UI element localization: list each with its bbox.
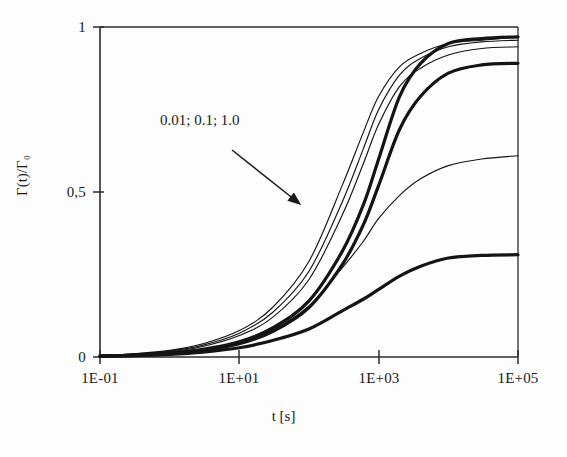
plot-area (0, 0, 567, 457)
x-tick-label-1e03: 1E+03 (358, 370, 399, 387)
y-tick-label-0-5: 0,5 (42, 184, 86, 201)
figure-canvas: 1 0,5 0 1E-01 1E+01 1E+03 1E+05 Γ(t)/Γ₀ … (0, 0, 567, 457)
y-axis-title: Γ(t)/Γ₀ (14, 155, 31, 196)
x-tick-label-1e01: 1E+01 (218, 370, 259, 387)
y-axis-ticks (93, 27, 104, 357)
x-tick-label-1e05: 1E+05 (497, 370, 538, 387)
data-curves (100, 37, 518, 356)
y-tick-label-0: 0 (52, 349, 86, 366)
x-axis-title: t [s] (0, 408, 567, 425)
curve-thick-b (100, 63, 518, 356)
annotation-arrow (232, 150, 300, 204)
x-tick-label-1e-01: 1E-01 (81, 370, 119, 387)
series-annotation-label: 0.01; 0.1; 1.0 (160, 112, 240, 129)
y-tick-label-1: 1 (52, 19, 86, 36)
